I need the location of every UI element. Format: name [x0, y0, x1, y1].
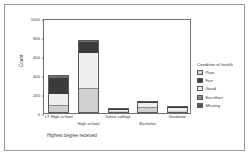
legend-swatch-icon — [197, 70, 203, 75]
x-tick-label: Junior college — [105, 115, 131, 119]
bar-segment-poor — [49, 106, 68, 112]
bar-bachelor — [137, 101, 158, 113]
legend-label: Excellent — [206, 95, 223, 100]
bar-high-school — [78, 40, 99, 113]
x-tick-label: Graduate — [168, 115, 185, 119]
bar-segment-good — [79, 53, 98, 88]
y-tick-mark — [42, 96, 45, 97]
legend-label: Poor — [206, 70, 215, 75]
bar-segment-good — [49, 94, 68, 104]
legend-swatch-icon — [197, 78, 203, 83]
x-tick-label: High school — [77, 122, 99, 126]
chart-canvas: Count 02004006008001000 LT High schoolHi… — [5, 5, 244, 150]
plot-area: 02004006008001000 LT High schoolHigh sch… — [43, 19, 191, 114]
x-axis-title: Highest degree received — [47, 133, 97, 138]
legend-label: Fair — [206, 78, 213, 83]
legend-swatch-icon — [197, 103, 203, 108]
bar-segment-excellent — [79, 42, 98, 53]
bar-segment-poor — [138, 108, 157, 112]
y-tick-mark — [42, 39, 45, 40]
x-tick-label: LT High school — [45, 115, 73, 119]
y-tick-mark — [42, 77, 45, 78]
legend-items: PoorFairGoodExcellentMissing — [197, 70, 251, 108]
legend-title: Condition of health — [197, 62, 251, 67]
chart-card: Count 02004006008001000 LT High schoolHi… — [4, 4, 245, 151]
legend-label: Good — [206, 86, 217, 91]
y-tick-mark — [42, 20, 45, 21]
legend-swatch-icon — [197, 86, 203, 91]
bar-segment-poor — [79, 89, 98, 112]
y-tick-mark — [42, 58, 45, 59]
bar-graduate — [167, 106, 188, 113]
bar-segment-poor — [109, 111, 128, 112]
legend-swatch-icon — [197, 95, 203, 100]
legend-label: Missing — [206, 103, 221, 108]
bar-junior-college — [108, 108, 129, 113]
bar-segment-excellent — [49, 78, 68, 94]
legend-item[interactable]: Excellent — [197, 95, 251, 100]
legend-item[interactable]: Missing — [197, 103, 251, 108]
x-tick-label: Bachelor — [139, 122, 156, 126]
legend-item[interactable]: Fair — [197, 78, 251, 83]
bar-lt-high-school — [48, 75, 69, 113]
y-axis-title: Count — [19, 55, 24, 67]
legend: Condition of health PoorFairGoodExcellen… — [197, 62, 251, 111]
legend-item[interactable]: Poor — [197, 70, 251, 75]
y-tick-mark — [42, 115, 45, 116]
legend-item[interactable]: Good — [197, 86, 251, 91]
bar-segment-poor — [168, 111, 187, 112]
